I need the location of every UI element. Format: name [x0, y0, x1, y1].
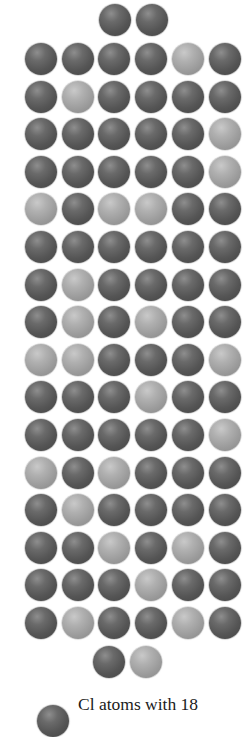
cl-atom-dark-icon — [209, 43, 241, 75]
cl-atom-dark-icon — [209, 306, 241, 338]
cl-atom-dark-icon — [62, 532, 94, 564]
cl-atom-dark-icon — [135, 156, 167, 188]
cl-atom-dark-icon — [25, 381, 57, 413]
cl-atom-dark-icon — [135, 457, 167, 489]
cl-atom-dark-icon — [25, 532, 57, 564]
cl-atom-dark-icon — [209, 231, 241, 263]
cl-atom-dark-icon — [172, 344, 204, 376]
legend-atom-icon — [37, 705, 69, 737]
cl-atom-light-icon — [135, 381, 167, 413]
cl-atom-dark-icon — [209, 381, 241, 413]
cl-atom-light-icon — [62, 344, 94, 376]
cl-atom-light-icon — [135, 569, 167, 601]
cl-atom-dark-icon — [25, 43, 57, 75]
cl-atom-dark-icon — [98, 381, 130, 413]
cl-atom-light-icon — [209, 344, 241, 376]
cl-atom-dark-icon — [93, 646, 125, 678]
cl-atom-light-icon — [172, 607, 204, 639]
cl-atom-dark-icon — [172, 81, 204, 113]
cl-atom-dark-icon — [25, 81, 57, 113]
cl-atom-dark-icon — [172, 457, 204, 489]
cl-atom-light-icon — [62, 306, 94, 338]
cl-atom-dark-icon — [98, 569, 130, 601]
cl-atom-dark-icon — [62, 419, 94, 451]
cl-atom-dark-icon — [25, 156, 57, 188]
cl-atom-light-icon — [209, 156, 241, 188]
cl-atom-dark-icon — [135, 81, 167, 113]
cl-atom-light-icon — [62, 494, 94, 526]
cl-atom-dark-icon — [209, 457, 241, 489]
cl-atom-dark-icon — [172, 231, 204, 263]
cl-atom-dark-icon — [135, 118, 167, 150]
cl-atom-dark-icon — [209, 607, 241, 639]
cl-atom-dark-icon — [172, 156, 204, 188]
cl-atom-light-icon — [25, 457, 57, 489]
cl-atom-dark-icon — [172, 269, 204, 301]
cl-atom-dark-icon — [172, 419, 204, 451]
cl-atom-dark-icon — [209, 532, 241, 564]
cl-atom-dark-icon — [135, 532, 167, 564]
cl-atom-dark-icon — [135, 231, 167, 263]
cl-atom-dark-icon — [172, 381, 204, 413]
cl-atom-dark-icon — [25, 494, 57, 526]
cl-atom-light-icon — [62, 269, 94, 301]
cl-atom-dark-icon — [135, 607, 167, 639]
cl-atom-dark-icon — [209, 569, 241, 601]
cl-atom-dark-icon — [172, 118, 204, 150]
cl-atom-dark-icon — [62, 193, 94, 225]
cl-atom-dark-icon — [135, 43, 167, 75]
cl-atom-dark-icon — [25, 607, 57, 639]
cl-atom-light-icon — [130, 646, 162, 678]
cl-atom-dark-icon — [135, 344, 167, 376]
cl-atom-dark-icon — [62, 569, 94, 601]
cl-atom-dark-icon — [172, 193, 204, 225]
cl-atom-dark-icon — [98, 156, 130, 188]
cl-atom-dark-icon — [98, 306, 130, 338]
cl-atom-light-icon — [25, 193, 57, 225]
cl-atom-dark-icon — [25, 231, 57, 263]
cl-atom-dark-icon — [209, 81, 241, 113]
cl-atom-light-icon — [98, 193, 130, 225]
cl-atom-dark-icon — [172, 306, 204, 338]
cl-atom-light-icon — [62, 81, 94, 113]
cl-atom-dark-icon — [62, 457, 94, 489]
cl-atom-dark-icon — [172, 569, 204, 601]
cl-atom-light-icon — [172, 43, 204, 75]
cl-atom-dark-icon — [25, 419, 57, 451]
cl-atom-dark-icon — [62, 231, 94, 263]
cl-atom-dark-icon — [98, 494, 130, 526]
cl-atom-dark-icon — [62, 43, 94, 75]
cl-atom-dark-icon — [172, 494, 204, 526]
cl-atom-light-icon — [172, 532, 204, 564]
cl-atom-dark-icon — [98, 419, 130, 451]
cl-atom-dark-icon — [98, 607, 130, 639]
cl-atom-dark-icon — [98, 344, 130, 376]
cl-atom-dark-icon — [25, 118, 57, 150]
legend: Cl atoms with 18 — [37, 694, 247, 720]
cl-atom-dark-icon — [25, 306, 57, 338]
cl-atom-light-icon — [98, 532, 130, 564]
cl-atom-light-icon — [135, 193, 167, 225]
legend-label: Cl atoms with 18 — [78, 694, 198, 714]
cl-atom-dark-icon — [209, 193, 241, 225]
cl-atom-light-icon — [209, 419, 241, 451]
cl-atom-dark-icon — [25, 269, 57, 301]
cl-atom-light-icon — [25, 344, 57, 376]
cl-atom-light-icon — [62, 607, 94, 639]
cl-atom-dark-icon — [209, 494, 241, 526]
cl-atom-dark-icon — [136, 4, 168, 36]
cl-atom-dark-icon — [25, 569, 57, 601]
cl-atom-dark-icon — [62, 381, 94, 413]
cl-atom-dark-icon — [98, 81, 130, 113]
cl-atom-dark-icon — [62, 156, 94, 188]
cl-atom-dark-icon — [99, 4, 131, 36]
cl-atom-dark-icon — [62, 118, 94, 150]
cl-atom-dark-icon — [98, 43, 130, 75]
cl-atom-light-icon — [135, 306, 167, 338]
cl-atom-dark-icon — [135, 269, 167, 301]
cl-atom-dark-icon — [98, 118, 130, 150]
cl-atom-light-icon — [98, 457, 130, 489]
cl-atom-dark-icon — [98, 231, 130, 263]
cl-atom-dark-icon — [98, 269, 130, 301]
